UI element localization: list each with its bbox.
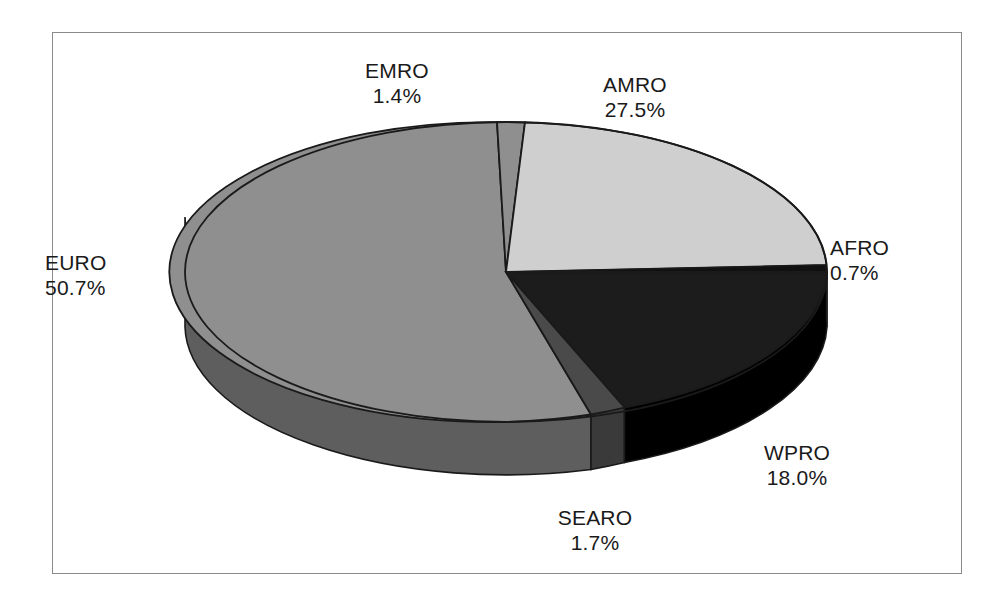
slice-label-searo: SEARO 1.7%	[505, 505, 685, 555]
slice-label-emro-name: EMRO	[327, 58, 467, 83]
slice-label-afro-value: 0.7%	[830, 260, 960, 285]
slice-label-searo-name: SEARO	[505, 505, 685, 530]
slice-label-wpro-value: 18.0%	[707, 465, 887, 490]
slice-label-wpro: WPRO 18.0%	[707, 440, 887, 490]
slice-label-amro-name: AMRO	[545, 72, 725, 97]
slice-label-searo-value: 1.7%	[505, 530, 685, 555]
figure-container: EMRO 1.4% AMRO 27.5% AFRO 0.7% WPRO 18.0…	[0, 0, 994, 599]
slice-top-amro	[506, 122, 826, 272]
slice-label-wpro-name: WPRO	[707, 440, 887, 465]
slice-label-emro-value: 1.4%	[327, 83, 467, 108]
slice-label-emro: EMRO 1.4%	[327, 58, 467, 108]
slice-label-afro-name: AFRO	[830, 235, 960, 260]
slice-label-euro-value: 50.7%	[45, 275, 195, 300]
slice-label-euro: EURO 50.7%	[45, 250, 195, 300]
slice-label-amro: AMRO 27.5%	[545, 72, 725, 122]
slice-label-afro: AFRO 0.7%	[830, 235, 960, 285]
slice-label-euro-name: EURO	[45, 250, 195, 275]
slice-label-amro-value: 27.5%	[545, 97, 725, 122]
